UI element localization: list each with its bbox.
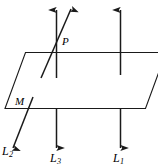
line-L3-letter: L [50, 151, 57, 165]
line-L1-letter: L [113, 151, 120, 165]
line-L1-subscript: 1 [120, 157, 124, 166]
line-L3-label: L3 [50, 152, 61, 166]
line-L2-label: L2 [2, 145, 13, 159]
line-L2-subscript: 2 [9, 150, 13, 159]
plane-outline [5, 53, 158, 109]
plane-M [5, 53, 158, 109]
line-L3-subscript: 3 [57, 157, 61, 166]
geometry-figure: P M L1 L3 L2 [0, 0, 158, 168]
line-L2-letter: L [2, 144, 9, 158]
point-P-label: P [62, 36, 69, 47]
figure-canvas [0, 0, 158, 168]
line-L1-label: L1 [113, 152, 124, 166]
plane-M-label: M [15, 96, 24, 107]
